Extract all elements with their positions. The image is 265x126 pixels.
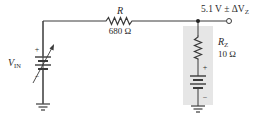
output-voltage-sub: Z <box>245 8 249 16</box>
resistor-r-icon <box>104 18 136 25</box>
output-voltage-label: 5.1 V ± ΔVZ <box>201 4 249 16</box>
vin-battery-icon <box>35 21 51 103</box>
resistor-r-name: R <box>116 5 123 16</box>
zener-minus-sign: − <box>203 93 208 102</box>
junction-dot <box>196 19 200 23</box>
rz-value: 10 Ω <box>218 49 236 59</box>
vin-plus-sign: + <box>35 45 40 54</box>
rz-name-main: R <box>217 36 224 47</box>
vin-label-sub: IN <box>14 62 21 69</box>
output-terminal <box>227 19 232 24</box>
resistor-r-value: 680 Ω <box>109 26 132 36</box>
output-voltage-main: 5.1 V ± ΔV <box>201 4 245 14</box>
vin-ground-icon <box>36 103 50 110</box>
vin-minus-sign: − <box>35 72 40 81</box>
zener-regulator-diagram: R 680 Ω 5.1 V ± ΔVZ VIN + − RZ 10 Ω + − <box>0 0 265 126</box>
rz-name-sub: Z <box>224 41 228 49</box>
left-wire <box>43 21 104 103</box>
zener-plus-sign: + <box>203 63 208 72</box>
zener-ground-icon <box>191 106 205 112</box>
vin-label: VIN <box>8 57 21 69</box>
rz-name: RZ <box>217 36 228 49</box>
